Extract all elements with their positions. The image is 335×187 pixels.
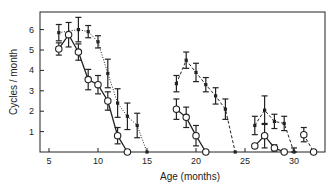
- open-circle-marker: [173, 106, 179, 112]
- open-circle-marker: [183, 114, 189, 120]
- y-tick-label: 4: [29, 65, 34, 75]
- open-circle-marker: [124, 149, 130, 155]
- x-tick-label: 15: [142, 156, 152, 166]
- filled-marker: [106, 72, 109, 75]
- filled-marker: [283, 122, 286, 125]
- filled-marker: [185, 59, 188, 62]
- filled-marker: [263, 109, 266, 112]
- filled-marker: [77, 28, 80, 31]
- series: [56, 17, 317, 155]
- open-circle-marker: [271, 145, 277, 151]
- filled-marker: [87, 30, 90, 33]
- y-axis-label: Cycles / month: [8, 49, 19, 115]
- x-axis-label: Age (months): [160, 171, 220, 182]
- x-tick-label: 25: [240, 156, 250, 166]
- open-circle-marker: [114, 132, 120, 138]
- open-circle-marker: [301, 131, 307, 137]
- y-tick-label: 3: [29, 86, 34, 96]
- series-line: [255, 136, 284, 152]
- open-circle-marker: [252, 143, 258, 149]
- open-circle-marker: [310, 149, 316, 155]
- filled-marker: [96, 40, 99, 43]
- x-tick-label: 10: [93, 156, 103, 166]
- y-tick-label: 1: [29, 127, 34, 137]
- series-open-dashed-group3b: [301, 128, 317, 156]
- filled-marker: [204, 83, 207, 86]
- filled-marker: [136, 124, 139, 127]
- y-tick-label: 5: [29, 45, 34, 55]
- series-line: [59, 30, 147, 152]
- filled-marker: [126, 115, 129, 118]
- filled-marker: [253, 124, 256, 127]
- open-circle-marker: [105, 98, 111, 104]
- open-circle-marker: [261, 132, 267, 138]
- open-circle-marker: [65, 32, 71, 38]
- open-circle-marker: [281, 149, 287, 155]
- line-chart: 51015202530123456 Age (months) Cycles / …: [0, 0, 335, 187]
- series-open-solid-group2: [173, 99, 209, 155]
- x-tick-label: 30: [289, 156, 299, 166]
- x-tick-label: 20: [191, 156, 201, 166]
- open-circle-marker: [56, 46, 62, 52]
- open-circle-marker: [75, 49, 81, 55]
- series-line: [176, 60, 235, 152]
- x-tick-label: 5: [46, 156, 51, 166]
- open-circle-marker: [193, 132, 199, 138]
- chart-container: 51015202530123456 Age (months) Cycles / …: [0, 0, 335, 187]
- series-open-solid-group3: [252, 123, 288, 155]
- y-tick-label: 6: [29, 25, 34, 35]
- filled-marker: [116, 101, 119, 104]
- filled-marker: [273, 120, 276, 123]
- filled-marker: [224, 108, 227, 111]
- y-tick-label: 2: [29, 106, 34, 116]
- filled-marker: [214, 94, 217, 97]
- filled-marker: [57, 31, 60, 34]
- filled-marker: [175, 82, 178, 85]
- filled-marker: [194, 71, 197, 74]
- series-line: [176, 109, 205, 152]
- filled-marker: [145, 150, 148, 153]
- filled-marker: [292, 150, 295, 153]
- open-circle-marker: [95, 81, 101, 87]
- filled-marker: [234, 150, 237, 153]
- series-filled-dashed-group2: [173, 52, 236, 154]
- open-circle-marker: [203, 149, 209, 155]
- open-circle-marker: [85, 76, 91, 82]
